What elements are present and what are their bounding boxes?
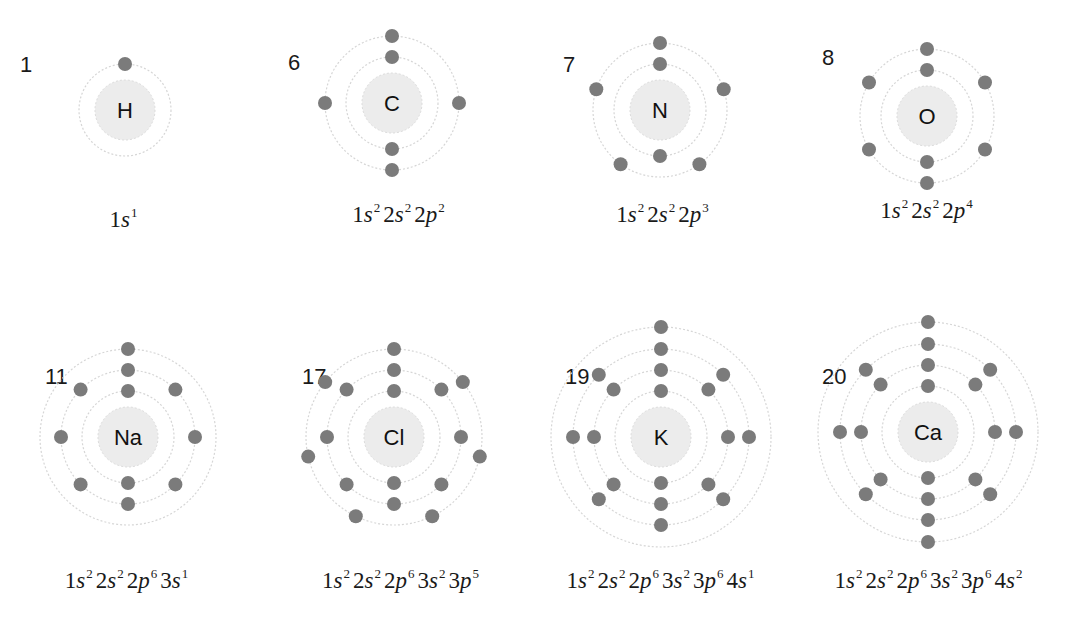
element-symbol: Ca — [914, 420, 943, 445]
subshell-letter: p — [954, 198, 966, 223]
atomic-number: 1 — [20, 52, 32, 77]
subshell-letter: s — [738, 568, 747, 593]
subshell-letter: s — [364, 202, 373, 227]
shell-number: 1 — [352, 202, 364, 227]
atomic-number: 11 — [45, 364, 68, 389]
subshell-letter: s — [877, 568, 886, 593]
shell-number: 1 — [835, 568, 847, 593]
atom-cl: 17Cl — [301, 342, 487, 525]
electron — [387, 342, 401, 356]
electron — [318, 96, 332, 110]
subshell-letter: s — [674, 568, 683, 593]
electron — [854, 425, 868, 439]
electron-count: 2 — [344, 566, 351, 581]
electron — [188, 430, 202, 444]
electron — [920, 176, 934, 190]
atomic-number: 20 — [822, 364, 846, 389]
electron — [121, 497, 135, 511]
subshell-letter: s — [942, 568, 951, 593]
electron — [983, 487, 997, 501]
shell-number: 2 — [96, 568, 108, 593]
electron — [653, 57, 667, 71]
electron-configuration-cl: 1s22s22p63s23p5 — [322, 566, 482, 594]
electron-count: 6 — [717, 566, 724, 581]
electron — [121, 476, 135, 490]
electron — [920, 63, 934, 77]
electron-count: 2 — [86, 566, 93, 581]
electron — [566, 430, 580, 444]
electron — [168, 477, 182, 491]
subshell-letter: s — [76, 568, 85, 593]
atom-n: 7N — [563, 36, 731, 177]
electron — [385, 163, 399, 177]
electron-count: 2 — [439, 566, 446, 581]
element-symbol: Na — [114, 425, 143, 450]
subshell-letter: s — [659, 202, 668, 227]
atom-k: 19K — [551, 320, 771, 547]
electron-count: 6 — [985, 566, 992, 581]
electron — [349, 509, 363, 523]
electron — [387, 363, 401, 377]
subshell-letter: p — [395, 568, 407, 593]
electron — [607, 383, 621, 397]
electron — [921, 337, 935, 351]
element-symbol: N — [652, 98, 668, 123]
subshell-letter: s — [429, 568, 438, 593]
subshell-letter: s — [172, 568, 181, 593]
electron — [387, 497, 401, 511]
electron-count: 2 — [887, 566, 894, 581]
electron — [716, 368, 730, 382]
electron — [862, 143, 876, 157]
electron — [921, 513, 935, 527]
shell-number: 3 — [930, 568, 942, 593]
electron — [701, 383, 715, 397]
electron-count: 3 — [702, 200, 709, 215]
electron-count: 5 — [472, 566, 479, 581]
electron-configuration-o: 1s22s22p4 — [880, 196, 975, 224]
atomic-number: 7 — [563, 52, 575, 77]
element-symbol: Cl — [384, 425, 405, 450]
electron — [385, 50, 399, 64]
subshell-letter: s — [334, 568, 343, 593]
subshell-letter: p — [908, 568, 920, 593]
electron — [978, 143, 992, 157]
electron — [654, 384, 668, 398]
electron — [320, 430, 334, 444]
electron — [121, 363, 135, 377]
electron — [653, 36, 667, 50]
shell-number: 1 — [65, 568, 77, 593]
electron — [721, 430, 735, 444]
electron-configuration-na: 1s22s22p63s1 — [65, 566, 191, 594]
atomic-number: 6 — [288, 50, 300, 75]
shell-number: 4 — [726, 568, 738, 593]
shell-number: 2 — [897, 568, 909, 593]
subshell-letter: s — [846, 568, 855, 593]
electron — [654, 518, 668, 532]
electron — [454, 430, 468, 444]
electron-configuration-c: 1s22s22p2 — [352, 200, 447, 228]
electron — [654, 363, 668, 377]
electron — [168, 383, 182, 397]
electron — [121, 342, 135, 356]
electron — [434, 383, 448, 397]
electron — [654, 342, 668, 356]
electron-count: 2 — [374, 200, 381, 215]
subshell-letter: p — [460, 568, 472, 593]
subshell-letter: s — [578, 568, 587, 593]
atom-na: 11Na — [40, 342, 216, 525]
electron — [859, 363, 873, 377]
shell-number: 2 — [383, 202, 395, 227]
electron — [654, 476, 668, 490]
electron — [74, 383, 88, 397]
shell-number: 1 — [616, 202, 628, 227]
element-symbol: H — [117, 98, 133, 123]
shell-number: 2 — [353, 568, 365, 593]
electron — [968, 472, 982, 486]
electron — [874, 378, 888, 392]
subshell-letter: p — [426, 202, 438, 227]
shell-number: 1 — [880, 198, 892, 223]
electron — [340, 477, 354, 491]
electron-configuration-n: 1s22s22p3 — [616, 200, 711, 228]
electron-count: 6 — [151, 566, 158, 581]
shell-number: 2 — [942, 198, 954, 223]
